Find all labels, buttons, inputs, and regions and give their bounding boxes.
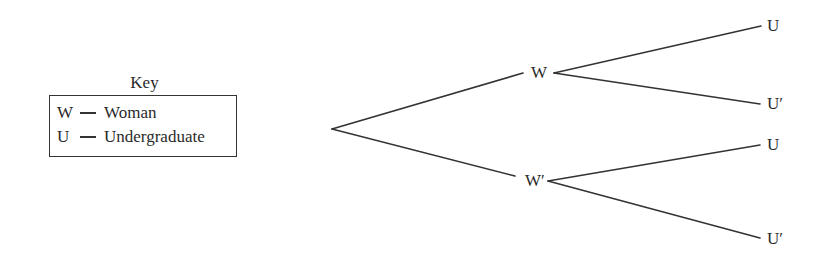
tree-node-label: W xyxy=(531,64,547,82)
branch-edge-level2 xyxy=(548,181,760,238)
tree-leaf-label: U′ xyxy=(767,230,783,248)
tree-leaf-label: U′ xyxy=(767,95,783,113)
branch-edge-level2 xyxy=(548,145,760,181)
tree-diagram-edges xyxy=(0,0,819,263)
tree-node-label: W′ xyxy=(525,172,545,190)
branch-edge-level1 xyxy=(332,129,515,176)
tree-leaf-label: U xyxy=(767,17,779,35)
tree-leaf-label: U xyxy=(767,136,779,154)
branch-edge-level1 xyxy=(332,73,523,129)
branch-edge-level2 xyxy=(554,26,761,73)
branch-edge-level2 xyxy=(554,73,760,104)
